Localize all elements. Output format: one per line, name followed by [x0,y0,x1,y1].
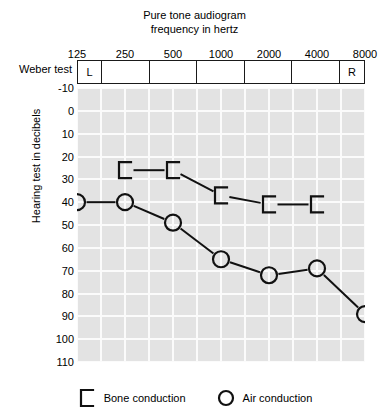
x-tick-1000: 1000 [209,47,233,61]
legend-item-bone-conduction: Bone conduction [77,388,186,408]
circle-marker-icon [216,388,236,408]
y-axis-tick-labels: -100102030405060708090100110 [0,0,74,420]
connector-air-conduction [181,228,214,253]
y-tick-90: 90 [0,310,74,322]
x-tick-8000: 8000 [353,47,377,61]
datapoint-500hz-49db[interactable] [165,215,181,231]
y-tick-110: 110 [0,356,74,368]
weber-cell-right[interactable]: R [340,61,364,83]
datapoint-4000hz-41db[interactable] [311,196,323,212]
weber-cell-left[interactable]: L [78,61,102,83]
y-tick-100: 100 [0,333,74,345]
bracket-marker-icon [77,388,97,408]
connector-air-conduction [134,206,165,219]
datapoint-1000hz-37db[interactable] [215,187,227,203]
connector-air-conduction [324,275,358,308]
chart-legend: Bone conductionAir conduction [0,388,389,408]
connector-air-conduction [278,270,307,274]
datapoint-8000hz-89db[interactable] [357,306,365,322]
connector-bone-conduction [181,174,214,191]
y-tick-50: 50 [0,219,74,231]
weber-cell-4[interactable] [245,61,293,83]
y-tick--10: -10 [0,82,74,94]
datapoint-1000hz-65db[interactable] [213,251,229,267]
datapoint-250hz-40db[interactable] [117,194,133,210]
y-tick-20: 20 [0,151,74,163]
y-tick-30: 30 [0,173,74,185]
x-tick-4000: 4000 [305,47,329,61]
audiogram-figure: Pure tone audiogram frequency in hertz 1… [0,0,389,420]
legend-label-air-conduction: Air conduction [243,392,313,404]
datapoint-500hz-26db[interactable] [167,162,179,178]
data-series-layer [77,88,365,362]
weber-cell-1[interactable] [102,61,150,83]
y-tick-60: 60 [0,242,74,254]
connector-bone-conduction [229,197,260,203]
weber-cell-2[interactable] [150,61,198,83]
legend-label-bone-conduction: Bone conduction [104,392,186,404]
y-tick-70: 70 [0,265,74,277]
y-tick-80: 80 [0,288,74,300]
weber-cell-3[interactable] [197,61,245,83]
y-tick-0: 0 [0,105,74,117]
datapoint-125hz-40db[interactable] [77,194,85,210]
datapoint-4000hz-69db[interactable] [309,260,325,276]
legend-item-air-conduction: Air conduction [216,388,313,408]
x-tick-2000: 2000 [257,47,281,61]
x-tick-500: 500 [164,47,182,61]
connector-air-conduction [230,262,260,272]
weber-cell-5[interactable] [292,61,340,83]
plot-area [77,88,365,362]
datapoint-2000hz-41db[interactable] [263,196,275,212]
x-tick-250: 250 [116,47,134,61]
datapoint-250hz-26db[interactable] [119,162,131,178]
datapoint-2000hz-72db[interactable] [261,267,277,283]
weber-test-row: LR [77,60,365,84]
y-tick-10: 10 [0,128,74,140]
y-tick-40: 40 [0,196,74,208]
